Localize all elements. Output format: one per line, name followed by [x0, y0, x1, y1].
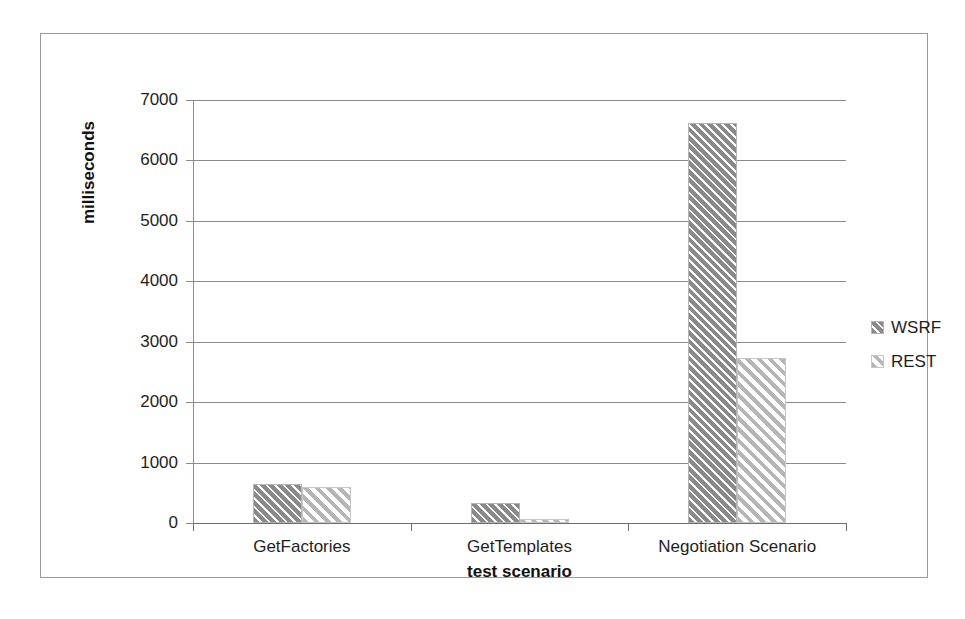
chart-legend: WSRFREST: [871, 310, 961, 378]
y-axis-title: milliseconds: [79, 121, 99, 224]
x-axis-tick: [411, 523, 412, 531]
y-axis-tick-label: 0: [118, 514, 178, 531]
gridline: [193, 281, 846, 282]
gridline: [193, 160, 846, 161]
chart-figure-frame: 01000200030004000500060007000 GetFactori…: [40, 33, 928, 578]
y-axis-tick-label: 7000: [118, 91, 178, 108]
x-axis-category-label: GetFactories: [193, 534, 411, 562]
x-axis-tick: [628, 523, 629, 531]
bar-wsrf-getfactories: [253, 484, 302, 523]
x-axis-category-label: Negotiation Scenario: [628, 534, 846, 562]
x-axis-category-label: GetTemplates: [411, 534, 629, 562]
y-axis-tick-labels: 01000200030004000500060007000: [116, 34, 178, 577]
y-axis-tick-label: 1000: [118, 454, 178, 471]
plot-area: [193, 100, 846, 523]
x-axis-tick: [846, 523, 847, 531]
gridline: [193, 342, 846, 343]
legend-item-wsrf[interactable]: WSRF: [871, 310, 961, 344]
y-axis-tick-label: 2000: [118, 393, 178, 410]
legend-label: REST: [891, 353, 936, 370]
legend-label: WSRF: [891, 319, 941, 336]
x-axis-line: [193, 523, 846, 524]
legend-swatch-icon: [871, 321, 884, 334]
y-axis-tick-label: 5000: [118, 212, 178, 229]
legend-item-rest[interactable]: REST: [871, 344, 961, 378]
gridline: [193, 221, 846, 222]
x-axis-tick: [193, 523, 194, 531]
bar-rest-getfactories: [302, 487, 351, 523]
bar-rest-gettemplates: [520, 519, 569, 523]
x-axis-title: test scenario: [193, 562, 846, 582]
y-axis-tick-label: 6000: [118, 151, 178, 168]
y-axis-tick-label: 3000: [118, 333, 178, 350]
x-axis-category-labels: GetFactoriesGetTemplatesNegotiation Scen…: [193, 534, 846, 562]
y-axis-tick-label: 4000: [118, 272, 178, 289]
gridline: [193, 100, 846, 101]
bar-wsrf-gettemplates: [471, 503, 520, 523]
legend-swatch-icon: [871, 355, 884, 368]
bar-wsrf-negotiation-scenario: [688, 123, 737, 523]
bar-rest-negotiation-scenario: [737, 358, 786, 523]
